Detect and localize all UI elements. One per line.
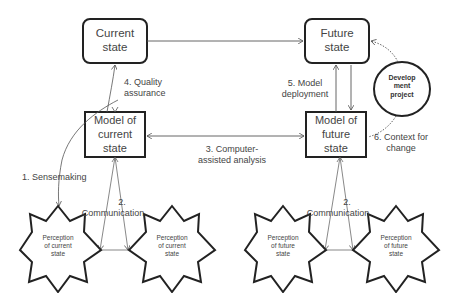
perception-current-2-label: Perception of current state	[147, 234, 197, 257]
perception-future-1-label: Perception of future state	[258, 234, 308, 257]
project-to-future-dotted	[371, 41, 398, 62]
computer-assisted-label: 3. Computer- assisted analysis	[192, 144, 272, 166]
perception-future-2-label: Perception of future state	[371, 234, 421, 257]
communication-current-label: 2. Communication	[80, 197, 146, 219]
quality-assurance-arrow	[107, 65, 115, 112]
communication-future-label: 2. Communication	[305, 197, 371, 219]
future-state-label: Future state	[305, 27, 369, 55]
perception-current-1-label: Perception of current state	[33, 234, 83, 257]
model-deployment-label: 5. Model deployment	[277, 78, 333, 100]
sensemaking-label: 1. Sensemaking	[22, 172, 87, 183]
model-future-label: Model of future state	[306, 114, 366, 155]
context-for-change-label: 6. Context for change	[369, 132, 433, 154]
model-current-label: Model of current state	[85, 114, 145, 155]
development-project-label: Develop ment project	[374, 74, 430, 99]
quality-assurance-label: 4. Quality assurance	[124, 77, 166, 99]
current-state-label: Current state	[83, 27, 147, 55]
